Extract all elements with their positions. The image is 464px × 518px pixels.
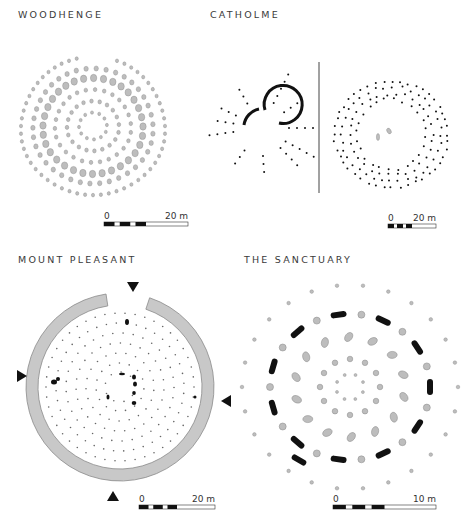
- woodhenge-plan: [19, 57, 166, 197]
- entrance-arrow-icon: [127, 282, 139, 292]
- scale-end-label: 20 m: [165, 211, 188, 221]
- entrance-arrow-icon: [107, 491, 119, 501]
- site-plans-figure: 020 m020 m020 m010 m: [0, 0, 464, 518]
- scale-end-label: 10 m: [413, 494, 436, 504]
- entrance-arrow-icon: [221, 395, 231, 407]
- scale-end-label: 20 m: [413, 213, 436, 223]
- scale-zero-label: 0: [139, 494, 145, 504]
- entrance-arrow-icon: [17, 370, 27, 382]
- catholme-plan: [209, 62, 449, 193]
- scale-zero-label: 0: [333, 494, 339, 504]
- scale-end-label: 20 m: [192, 494, 215, 504]
- scale-zero-label: 0: [104, 211, 110, 221]
- mount-pleasant-plan: [17, 282, 231, 501]
- scale-zero-label: 0: [388, 213, 394, 223]
- sanctuary-plan: [240, 284, 460, 490]
